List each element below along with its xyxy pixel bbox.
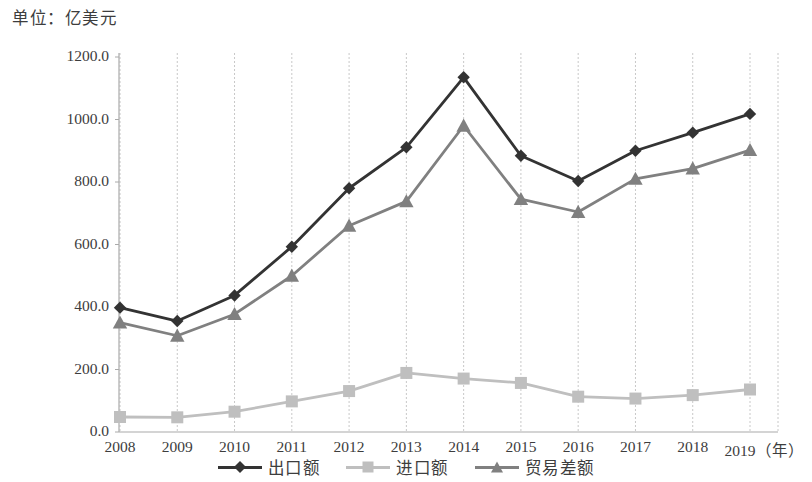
legend-label: 出口额 [268,455,321,479]
axis-lines [115,53,778,432]
x-axis-tick-label: 2012 [334,438,365,456]
data-point-marker [629,393,641,405]
legend-item-balance[interactable]: 贸易差额 [475,455,595,479]
chart-legend: 出口额进口额贸易差额 [0,455,812,479]
data-point-marker [744,384,756,396]
legend-label: 进口额 [396,455,449,479]
data-point-marker [572,175,584,187]
legend-marker-triangle-icon [490,460,504,474]
x-axis-tick-label: 2016 [563,438,594,456]
data-point-marker [743,143,757,156]
data-point-marker [687,126,699,138]
data-point-marker [113,315,127,328]
data-point-marker [171,411,183,423]
x-axis-tick-label: 2014 [448,438,479,456]
chart-plot-area [0,0,812,482]
x-axis-tick-label: 2010 [219,438,250,456]
data-point-marker [171,315,183,327]
chart-container: 单位：亿美元 0.0200.0400.0600.0800.01000.01200… [0,0,812,482]
data-point-marker [515,377,527,389]
data-series-layer [113,71,757,423]
x-axis-tick-label: 2015 [505,438,536,456]
data-point-marker [229,406,241,418]
y-axis-tick-label: 0.0 [29,422,109,440]
legend-marker-square-icon [361,460,375,474]
data-point-marker [400,367,412,379]
data-point-marker [629,145,641,157]
data-point-marker [687,389,699,401]
x-axis-tick-label: 2018 [677,438,708,456]
data-point-marker [343,385,355,397]
y-axis-tick-label: 400.0 [29,297,109,315]
legend-item-imports[interactable]: 进口额 [346,455,449,479]
data-point-marker [456,119,470,132]
legend-swatch-diamond-icon [218,459,262,475]
y-axis-tick-label: 1000.0 [29,110,109,128]
y-axis-tick-label: 600.0 [29,235,109,253]
x-axis-tick-label: 2008 [105,438,136,456]
data-point-marker [286,395,298,407]
legend-swatch-triangle-icon [475,459,519,475]
data-point-marker [114,301,126,313]
series-line [120,373,750,417]
legend-item-exports[interactable]: 出口额 [218,455,321,479]
gridlines [120,53,778,432]
y-axis-tick-label: 800.0 [29,172,109,190]
legend-label: 贸易差额 [525,455,595,479]
data-point-marker [114,411,126,423]
data-point-marker [227,307,241,320]
series-line [120,77,750,321]
data-point-marker [458,373,470,385]
legend-swatch-square-icon [346,459,390,475]
y-axis-tick-label: 200.0 [29,360,109,378]
series-imports [114,367,756,423]
x-axis-tick-label: 2017 [620,438,651,456]
x-axis-tick-label: 2011 [277,438,307,456]
data-point-marker [572,391,584,403]
x-axis-tick-label: 2013 [391,438,422,456]
legend-marker-diamond-icon [233,460,247,474]
y-axis-tick-label: 1200.0 [29,47,109,65]
series-exports [114,71,756,327]
data-point-marker [744,108,756,120]
x-axis-tick-label: 2009 [162,438,193,456]
